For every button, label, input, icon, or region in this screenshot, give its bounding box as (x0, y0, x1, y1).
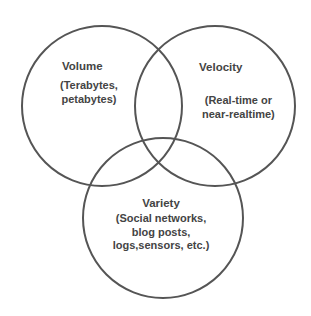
velocity-description-line: near-realtime) (202, 108, 275, 122)
volume-description-line: (Terabytes, (60, 79, 118, 93)
variety-description-line: logs,sensors, etc.) (0, 239, 311, 253)
variety-description-line: blog posts, (0, 226, 311, 240)
velocity-title: Velocity (199, 62, 242, 74)
velocity-description: (Real-time or near-realtime) (202, 94, 275, 121)
volume-description-line: petabytes) (60, 93, 118, 107)
variety-title: Variety (0, 198, 311, 210)
volume-description: (Terabytes, petabytes) (60, 79, 118, 106)
velocity-description-line: (Real-time or (202, 94, 275, 108)
variety-description: (Social networks, blog posts, logs,senso… (0, 212, 311, 253)
variety-description-line: (Social networks, (0, 212, 311, 226)
volume-title: Volume (62, 61, 103, 73)
venn-diagram (0, 0, 311, 316)
